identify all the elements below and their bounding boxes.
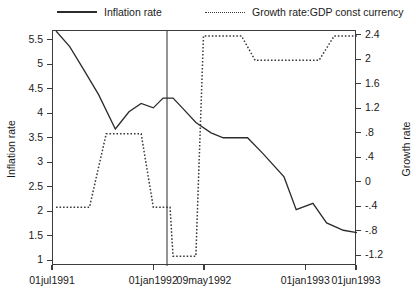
y-axis-tick-right <box>356 83 361 84</box>
legend-key-dotted-line-icon <box>205 12 245 13</box>
y-axis-tick-label-left: 4 <box>3 107 43 118</box>
x-axis-tick-label: 09may1992 <box>159 274 249 286</box>
legend-key-solid-line-icon <box>57 11 97 13</box>
x-axis-tick <box>203 265 204 270</box>
y-axis-tick-label-right: -.8 <box>365 225 407 236</box>
x-axis-tick <box>355 265 356 270</box>
y-axis-tick-label-left: 1.5 <box>3 230 43 241</box>
y-axis-tick-right <box>356 230 361 231</box>
y-axis-tick-left <box>47 162 52 163</box>
y-axis-tick-label-right: 1.6 <box>365 78 407 89</box>
y-axis-tick-right <box>356 34 361 35</box>
y-axis-tick-left <box>47 64 52 65</box>
y-axis-tick-label-right: 2.4 <box>365 29 407 40</box>
y-axis-tick-right <box>356 181 361 182</box>
y-axis-tick-left <box>47 113 52 114</box>
legend-entry-growth-rate: Growth rate:GDP const currency <box>205 2 404 22</box>
y-axis-tick-right <box>356 108 361 109</box>
series-line-inflation-rate <box>56 31 357 233</box>
y-axis-tick-left <box>47 137 52 138</box>
y-axis-tick-label-right: 1.2 <box>365 102 407 113</box>
y-axis-tick-label-right: .8 <box>365 127 407 138</box>
y-axis-tick-label-right: -1.2 <box>365 249 407 260</box>
x-axis-tick-label: 01jun1993 <box>311 274 401 286</box>
y-axis-tick-label-right: 2 <box>365 53 407 64</box>
plot-svg <box>53 31 357 266</box>
y-axis-tick-right <box>356 132 361 133</box>
y-axis-tick-left <box>47 211 52 212</box>
x-axis-tick <box>305 265 306 270</box>
y-axis-tick-label-left: 2.5 <box>3 181 43 192</box>
y-axis-tick-label-left: 3 <box>3 156 43 167</box>
y-axis-tick-left <box>47 39 52 40</box>
y-axis-tick-left <box>47 186 52 187</box>
plot-area <box>52 30 356 265</box>
chart-container: Inflation rate Growth rate:GDP const cur… <box>0 0 416 298</box>
legend-entry-inflation-rate: Inflation rate <box>57 2 162 22</box>
y-axis-tick-left <box>47 235 52 236</box>
y-axis-tick-right <box>356 206 361 207</box>
y-axis-tick-left <box>47 88 52 89</box>
y-axis-tick-label-right: 0 <box>365 176 407 187</box>
x-axis-tick <box>153 265 154 270</box>
y-axis-tick-right <box>356 255 361 256</box>
y-axis-tick-right <box>356 157 361 158</box>
y-axis-tick-left <box>47 260 52 261</box>
legend-label-inflation-rate: Inflation rate <box>104 6 162 18</box>
x-axis-tick <box>51 265 52 270</box>
y-axis-tick-label-left: 1 <box>3 254 43 265</box>
y-axis-tick-label-right: .4 <box>365 151 407 162</box>
y-axis-tick-label-right: -.4 <box>365 200 407 211</box>
y-axis-tick-label-left: 3.5 <box>3 132 43 143</box>
y-axis-tick-label-left: 2 <box>3 205 43 216</box>
y-axis-tick-label-left: 4.5 <box>3 83 43 94</box>
y-axis-tick-label-left: 5 <box>3 58 43 69</box>
chart-legend: Inflation rate Growth rate:GDP const cur… <box>0 2 416 22</box>
y-axis-tick-label-left: 5.5 <box>3 34 43 45</box>
series-line-growth-rate <box>56 36 357 256</box>
y-axis-tick-right <box>356 59 361 60</box>
x-axis-tick-label: 01jul1991 <box>7 274 97 286</box>
legend-label-growth-rate: Growth rate:GDP const currency <box>252 6 404 18</box>
